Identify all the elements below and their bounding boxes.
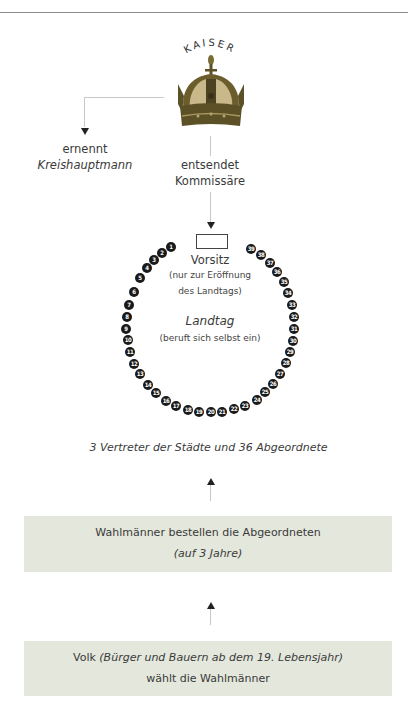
seat: 30: [288, 336, 298, 346]
electors-box: Wahlmänner bestellen die Abgeordneten (a…: [24, 516, 392, 572]
seat: 15: [151, 388, 161, 398]
svg-text:KAISER: KAISER: [182, 37, 238, 55]
connector-electors: [210, 485, 211, 501]
volk-label: Volk: [73, 651, 99, 664]
seat: 20: [206, 407, 216, 417]
arrow-up-icon: [207, 478, 215, 485]
seat: 38: [256, 250, 266, 260]
entsendet-label: entsendet: [160, 157, 260, 173]
landtag-note: (beruft sich selbst ein): [130, 331, 290, 346]
seat: 2: [157, 248, 167, 258]
connector-left-vertical: [84, 97, 85, 127]
seat: 11: [125, 347, 135, 357]
top-divider: [0, 12, 408, 13]
arrow-up-icon: [207, 602, 215, 609]
seat: 34: [283, 288, 293, 298]
seat: 7: [124, 300, 134, 310]
seat: 27: [275, 369, 285, 379]
kreishauptmann-label: Kreishauptmann: [30, 157, 140, 173]
seat: 22: [229, 404, 239, 414]
seat: 13: [135, 369, 145, 379]
connector-center-lower: [210, 192, 211, 222]
seat: 18: [183, 405, 193, 415]
connector-left-horizontal: [84, 97, 164, 98]
vorsitz-label: Vorsitz: [160, 252, 260, 268]
arrow-down-icon: [81, 128, 89, 135]
composition-caption: 3 Vertreter der Städte und 36 Abgeordnet…: [0, 441, 417, 454]
seat: 25: [260, 387, 270, 397]
kommissaere-label: Kommissäre: [160, 173, 260, 189]
vorsitz-note-2: des Landtags): [140, 284, 280, 299]
people-box: Volk (Bürger und Bauern ab dem 19. Leben…: [24, 641, 392, 696]
chair-seat: [196, 234, 228, 249]
seat: 23: [240, 401, 250, 411]
seat: 16: [161, 396, 171, 406]
seat: 32: [289, 312, 299, 322]
volk-note: (Bürger und Bauern ab dem 19. Lebensjahr…: [99, 651, 343, 664]
seat: 24: [252, 395, 262, 405]
electors-line-2: (auf 3 Jahre): [24, 543, 392, 564]
seat: 36: [272, 267, 282, 277]
seat: 26: [268, 379, 278, 389]
seat: 37: [265, 258, 275, 268]
ernennt-label: ernennt: [30, 141, 140, 157]
seat: 39: [246, 244, 256, 254]
seat: 1: [166, 242, 176, 252]
seat: 4: [142, 263, 152, 273]
electors-line-1: Wahlmänner bestellen die Abgeordneten: [24, 516, 392, 543]
landtag-label: Landtag: [160, 313, 260, 329]
seat: 12: [129, 359, 139, 369]
seat: 21: [217, 407, 227, 417]
seat: 29: [285, 347, 295, 357]
connector-center-upper: [210, 136, 211, 156]
seat: 28: [281, 358, 291, 368]
seat: 6: [129, 287, 139, 297]
seat: 19: [194, 407, 204, 417]
people-line-2: wählt die Wahlmänner: [24, 668, 392, 689]
connector-people: [210, 609, 211, 625]
crown-icon: [176, 54, 246, 132]
seat: 8: [122, 312, 132, 322]
seat: 31: [289, 324, 299, 334]
vorsitz-note-1: (nur zur Eröffnung: [140, 268, 280, 283]
seat: 10: [123, 335, 133, 345]
seat: 33: [287, 300, 297, 310]
people-line-1: Volk (Bürger und Bauern ab dem 19. Leben…: [24, 641, 392, 668]
seat: 5: [135, 273, 145, 283]
seat: 35: [279, 277, 289, 287]
arrow-down-icon: [207, 222, 215, 229]
seat: 9: [121, 324, 131, 334]
seat: 17: [171, 401, 181, 411]
